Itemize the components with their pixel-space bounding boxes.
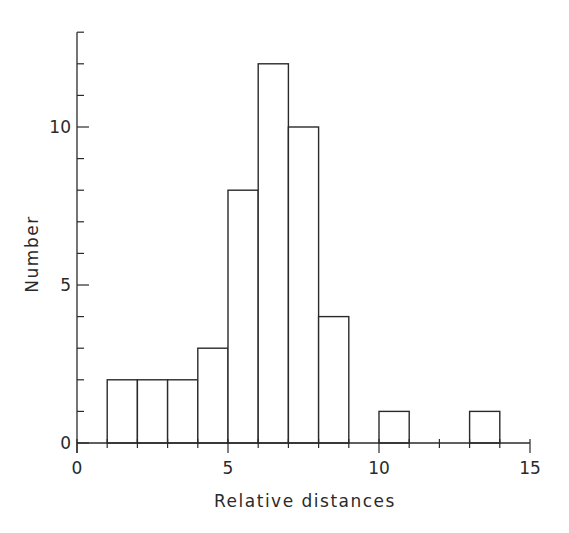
- x-axis-ticks: 051015: [72, 439, 541, 478]
- x-tick-label: 10: [368, 458, 390, 478]
- x-tick-label: 5: [223, 458, 234, 478]
- x-axis-label: Relative distances: [214, 491, 396, 511]
- histogram-bar: [137, 380, 167, 443]
- y-tick-label: 10: [49, 117, 71, 137]
- histogram-bar: [168, 380, 198, 443]
- y-tick-label: 0: [60, 433, 71, 453]
- histogram-bar: [107, 380, 137, 443]
- histogram-bar: [258, 64, 288, 443]
- histogram-bar: [470, 411, 500, 443]
- histogram-bars: [107, 64, 500, 443]
- histogram-bar: [288, 127, 318, 443]
- y-tick-label: 5: [60, 275, 71, 295]
- histogram-bar: [198, 348, 228, 443]
- y-axis-label: Number: [22, 215, 42, 292]
- histogram-bar: [319, 317, 349, 443]
- x-tick-label: 15: [519, 458, 541, 478]
- x-tick-label: 0: [72, 458, 83, 478]
- histogram-chart: 051015 0510 Relative distances Number: [0, 0, 569, 533]
- histogram-bar: [228, 190, 258, 443]
- histogram-bar: [379, 411, 409, 443]
- y-axis-ticks: 0510: [49, 32, 89, 453]
